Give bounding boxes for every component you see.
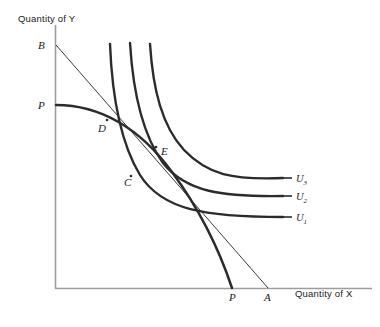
dot-e <box>155 146 158 149</box>
label-d: D <box>97 122 106 134</box>
label-u3-subscript: 3 <box>303 179 308 187</box>
label-e: E <box>160 145 168 157</box>
label-u3: U3 <box>296 173 308 187</box>
ppf-curve <box>56 105 232 288</box>
x-axis-title: Quantity of X <box>295 288 353 299</box>
label-p-y: P <box>37 99 45 111</box>
label-u2: U2 <box>296 191 308 205</box>
label-c: C <box>124 176 132 188</box>
dot-d <box>106 119 109 122</box>
y-axis-title: Quantity of Y <box>18 13 76 24</box>
label-a: A <box>263 291 271 303</box>
label-u1: U1 <box>296 212 307 226</box>
economics-diagram: Quantity of Y Quantity of X B P D C E P … <box>0 0 380 327</box>
label-u1-subscript: 1 <box>304 218 308 226</box>
budget-line <box>56 45 268 288</box>
label-u2-subscript: 2 <box>304 197 308 205</box>
label-p-x: P <box>228 291 236 303</box>
label-b: B <box>38 39 45 51</box>
indifference-curve-u1 <box>110 44 283 217</box>
indifference-curve-u3 <box>150 44 283 178</box>
